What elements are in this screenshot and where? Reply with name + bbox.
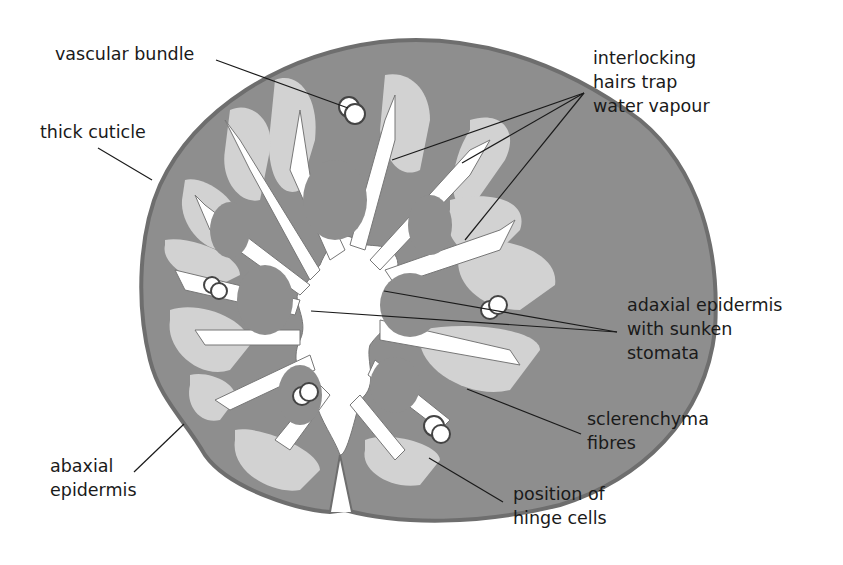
label-hinge-cells: position of hinge cells — [513, 482, 607, 530]
label-vascular-bundle: vascular bundle — [55, 42, 194, 66]
label-abaxial-epidermis: abaxial epidermis — [50, 454, 137, 502]
label-thick-cuticle: thick cuticle — [40, 120, 146, 144]
label-sclerenchyma-fibres: sclerenchyma fibres — [587, 407, 709, 455]
label-adaxial-epidermis: adaxial epidermis with sunken stomata — [627, 293, 782, 365]
label-interlocking-hairs: interlocking hairs trap water vapour — [593, 46, 710, 118]
